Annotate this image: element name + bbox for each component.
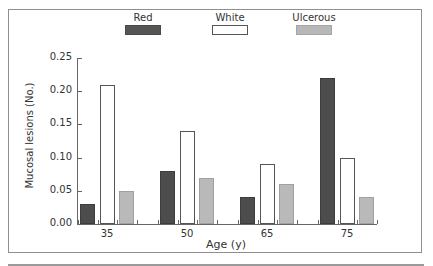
x-tick (197, 220, 198, 224)
x-tick (137, 220, 138, 224)
bar-white-75 (340, 158, 355, 224)
y-axis (77, 58, 78, 224)
bar-white-35 (100, 85, 115, 224)
legend-swatch-ulcerous (296, 25, 332, 35)
bar-white-50 (180, 131, 195, 224)
y-tick (77, 191, 82, 192)
bar-white-65 (260, 164, 275, 224)
y-tick (77, 124, 82, 125)
y-tick-label: 0.25 (38, 51, 72, 62)
y-tick (77, 91, 82, 92)
bar-red-65 (240, 197, 255, 224)
x-tick-label: 35 (92, 228, 122, 239)
legend-label: Red (125, 12, 161, 24)
y-tick-label: 0.00 (38, 217, 72, 228)
x-tick (78, 220, 79, 224)
x-tick (377, 220, 378, 224)
x-tick (277, 220, 278, 224)
x-tick-label: 65 (252, 228, 282, 239)
y-tick (77, 224, 82, 225)
x-tick (357, 220, 358, 224)
legend-swatch-red (125, 25, 161, 35)
x-tick (178, 220, 179, 224)
bar-red-75 (320, 78, 335, 224)
y-tick (77, 158, 82, 159)
legend-item-white: White (212, 12, 248, 35)
y-axis-label: Mucosal lesions (No.) (24, 81, 35, 191)
x-tick (318, 220, 319, 224)
x-tick (158, 220, 159, 224)
x-axis-label: Age (y) (196, 238, 256, 251)
y-tick (77, 58, 82, 59)
x-tick (98, 220, 99, 224)
legend-item-ulcerous: Ulcerous (289, 12, 339, 35)
x-tick-label: 75 (332, 228, 362, 239)
x-tick (238, 220, 239, 224)
bar-ulcerous-75 (359, 197, 374, 224)
y-tick-label: 0.20 (38, 84, 72, 95)
y-tick-label: 0.05 (38, 184, 72, 195)
bar-red-35 (80, 204, 95, 224)
legend-item-red: Red (125, 12, 161, 35)
x-tick (258, 220, 259, 224)
bar-red-50 (160, 171, 175, 224)
bar-ulcerous-50 (199, 178, 214, 224)
x-tick (297, 220, 298, 224)
x-tick (117, 220, 118, 224)
bar-ulcerous-65 (279, 184, 294, 224)
x-tick (217, 220, 218, 224)
bar-ulcerous-35 (119, 191, 134, 224)
legend-label: White (212, 12, 248, 24)
x-tick (338, 220, 339, 224)
y-tick-label: 0.15 (38, 117, 72, 128)
legend-label: Ulcerous (289, 12, 339, 24)
legend-swatch-white (212, 25, 248, 35)
y-tick-label: 0.10 (38, 151, 72, 162)
x-axis (77, 224, 377, 225)
